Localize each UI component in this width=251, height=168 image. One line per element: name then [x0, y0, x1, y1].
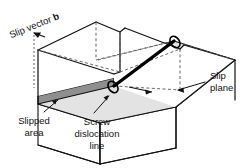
- screw-dislocation-label-line3: line: [90, 140, 105, 151]
- screw-dislocation-label-line1: Screw: [84, 116, 111, 127]
- slip-plane-label-line1: Slip: [210, 70, 226, 81]
- slip-vector-symbol-label: b: [51, 10, 61, 22]
- slip-vector-label: Slip vector: [8, 13, 53, 40]
- figure-canvas: Slip vector b Slipped area Screw disloca…: [0, 0, 251, 168]
- slip-plane-label-line2: plane: [210, 82, 233, 93]
- screw-dislocation-label-line2: dislocation: [75, 128, 120, 139]
- slipped-area-label-line1: Slipped: [18, 115, 50, 126]
- screw-dislocation-figure: Slip vector b Slipped area Screw disloca…: [0, 0, 251, 168]
- slipped-area-label-line2: area: [24, 127, 44, 138]
